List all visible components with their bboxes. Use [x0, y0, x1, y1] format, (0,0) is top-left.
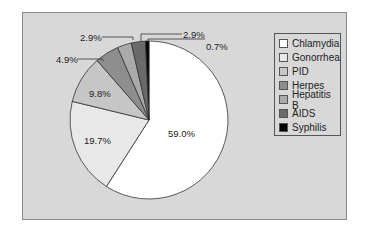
label-herpes: 4.9% [56, 54, 78, 65]
legend-item-gonorrhea: Gonorrhea [279, 51, 340, 64]
swatch-icon [279, 123, 288, 132]
label-gonorrhea: 19.7% [84, 135, 111, 146]
legend-item-chlamydia: Chlamydia [279, 37, 339, 50]
legend-item-pid: PID [279, 65, 309, 78]
label-chlamydia: 59.0% [168, 128, 195, 139]
swatch-icon [279, 109, 288, 118]
label-aids: 2.9% [183, 29, 205, 40]
swatch-icon [279, 39, 288, 48]
swatch-icon [279, 67, 288, 76]
swatch-icon [279, 95, 288, 104]
legend: Chlamydia Gonorrhea PID Herpes Hepatitis… [274, 33, 341, 136]
legend-item-syphilis: Syphilis [279, 121, 326, 134]
label-hepatitis-b: 2.9% [80, 32, 102, 43]
legend-item-aids: AIDS [279, 107, 315, 120]
swatch-icon [279, 81, 288, 90]
swatch-icon [279, 53, 288, 62]
label-syphilis: 0.7% [206, 41, 228, 52]
label-pid: 9.8% [89, 88, 111, 99]
legend-item-hepatitis-b: Hepatitis B [279, 93, 340, 106]
